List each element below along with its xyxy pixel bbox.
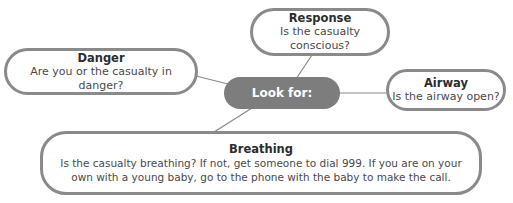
airway-description: Is the airway open? (392, 90, 499, 104)
airway-title: Airway (424, 76, 468, 90)
breathing-description: Is the casualty breathing? If not, get s… (57, 156, 465, 184)
danger-title: Danger (77, 51, 124, 65)
danger-description: Are you or the casualty in danger? (7, 65, 195, 93)
center-node: Look for: (224, 77, 340, 109)
response-node: Response Is the casualty conscious? (250, 8, 390, 56)
danger-node: Danger Are you or the casualty in danger… (4, 48, 198, 95)
response-title: Response (289, 11, 351, 25)
breathing-node: Breathing Is the casualty breathing? If … (40, 131, 482, 195)
breathing-title: Breathing (229, 142, 293, 156)
airway-node: Airway Is the airway open? (386, 69, 506, 111)
response-description: Is the casualty conscious? (253, 25, 387, 53)
